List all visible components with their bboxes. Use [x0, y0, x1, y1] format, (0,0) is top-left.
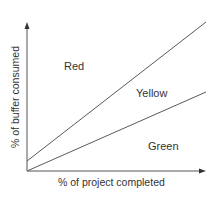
red-yellow-boundary-line: [27, 22, 206, 161]
y-axis-label: % of buffer consumed: [10, 46, 21, 148]
region-label-green: Green: [148, 141, 179, 152]
y-axis-arrow-icon: [25, 22, 30, 29]
x-axis-arrow-icon: [199, 169, 206, 174]
yellow-green-boundary-line: [27, 92, 206, 171]
x-axis-label: % of project completed: [58, 177, 165, 188]
buffer-zone-diagram: [0, 0, 219, 200]
region-label-red: Red: [64, 61, 84, 72]
region-label-yellow: Yellow: [136, 88, 167, 99]
